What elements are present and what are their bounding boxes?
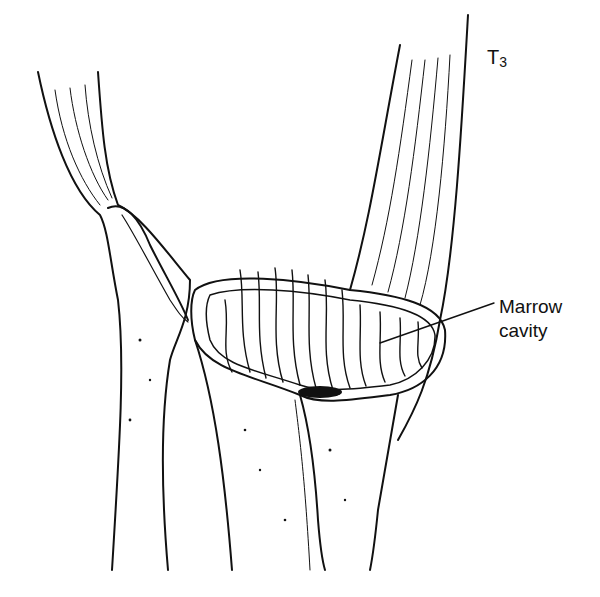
marrow-label-line2: cavity (499, 319, 562, 343)
stage-label-subscript: 3 (499, 54, 507, 70)
left-stem (38, 72, 190, 570)
stage-label-main: T (487, 46, 499, 68)
marrow-strands (225, 268, 422, 390)
marrow-cavity-label: Marrow cavity (499, 295, 562, 343)
right-stem (350, 15, 468, 440)
shading-dots (129, 339, 347, 522)
marrow-label-line1: Marrow (499, 295, 562, 319)
stage-label: T3 (487, 46, 507, 69)
lower-trunk (195, 340, 398, 570)
dark-shadow (298, 386, 342, 398)
